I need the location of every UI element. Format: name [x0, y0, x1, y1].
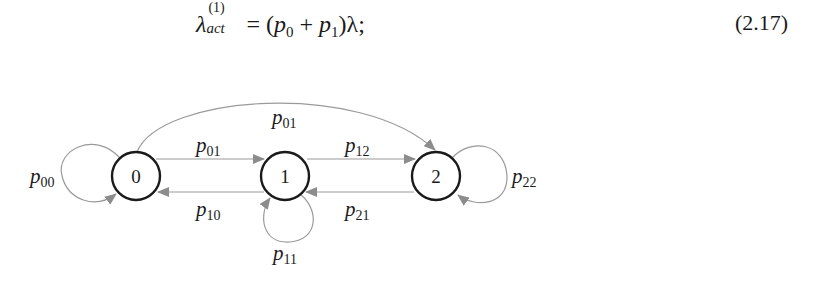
markov-chain-diagram: 0 1 2 p00 p01 p10 p11 p12 p21 p22 p01	[0, 0, 825, 287]
label-p00: p00	[28, 164, 55, 190]
label-p10: p10	[194, 197, 221, 223]
node-1-label: 1	[280, 166, 290, 187]
node-2: 2	[412, 152, 460, 200]
label-p11: p11	[271, 241, 297, 267]
node-0-label: 0	[131, 166, 141, 187]
node-1: 1	[261, 152, 309, 200]
label-p22: p22	[510, 164, 537, 190]
node-2-label: 2	[431, 166, 441, 187]
label-p01: p01	[194, 133, 221, 159]
label-p21: p21	[343, 197, 370, 223]
edge-1-1	[264, 194, 314, 242]
node-0: 0	[112, 152, 160, 200]
label-p12: p12	[343, 133, 370, 159]
label-p01-arc: p01	[270, 105, 297, 131]
